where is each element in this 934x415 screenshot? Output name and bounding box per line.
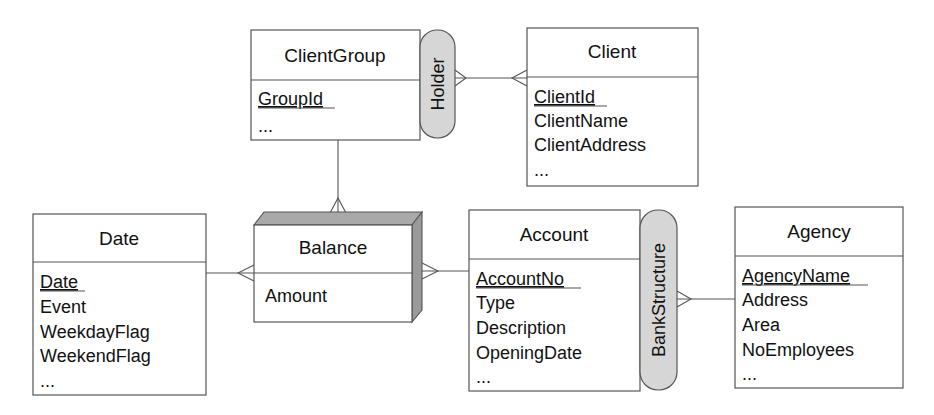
attribute: ClientName <box>534 111 628 131</box>
attribute: ... <box>258 116 273 136</box>
primary-key-attribute: AgencyName <box>742 266 850 286</box>
fact-top-face <box>254 212 422 225</box>
attribute: Description <box>476 318 566 338</box>
entity-title: Balance <box>299 237 368 258</box>
attribute: ... <box>476 367 491 387</box>
attribute: OpeningDate <box>476 343 582 363</box>
relationship-label: BankStructure <box>649 243 669 357</box>
primary-key-attribute: Date <box>40 272 78 292</box>
entity-balance-fact[interactable]: Balance Amount <box>254 212 422 322</box>
primary-key-attribute: AccountNo <box>476 269 564 289</box>
attribute: ClientAddress <box>534 135 646 155</box>
attribute: NoEmployees <box>742 340 854 360</box>
attribute: Area <box>742 315 781 335</box>
entity-date[interactable]: Date Date Event WeekdayFlag WeekendFlag … <box>33 214 206 395</box>
entity-agency[interactable]: Agency AgencyName Address Area NoEmploye… <box>735 207 903 388</box>
entity-title: Account <box>520 224 589 245</box>
attribute: Event <box>40 297 86 317</box>
attribute: Address <box>742 290 808 310</box>
attribute: ... <box>40 371 55 391</box>
entity-account[interactable]: Account AccountNo Type Description Openi… <box>469 210 640 391</box>
entity-clientgroup[interactable]: ClientGroup GroupId ... <box>251 30 420 140</box>
measure-attribute: Amount <box>265 286 327 306</box>
entity-title: Agency <box>787 221 851 242</box>
entity-client[interactable]: Client ClientId ClientName ClientAddress… <box>527 28 698 186</box>
primary-key-attribute: GroupId <box>258 89 323 109</box>
attribute: WeekendFlag <box>40 346 151 366</box>
fact-side-face <box>412 212 422 322</box>
attribute: Type <box>476 293 515 313</box>
entity-title: Date <box>99 228 139 249</box>
attribute: WeekdayFlag <box>40 322 150 342</box>
attribute: ... <box>742 364 757 384</box>
attribute: ... <box>534 160 549 180</box>
relationship-bankstructure[interactable]: BankStructure <box>640 210 677 390</box>
relationship-holder[interactable]: Holder <box>420 30 455 138</box>
entity-title: Client <box>588 41 637 62</box>
entity-title: ClientGroup <box>284 45 385 66</box>
primary-key-attribute: ClientId <box>534 87 595 107</box>
er-diagram: ClientGroup GroupId ... Holder Client Cl… <box>0 0 934 415</box>
relationship-label: Holder <box>428 57 448 110</box>
